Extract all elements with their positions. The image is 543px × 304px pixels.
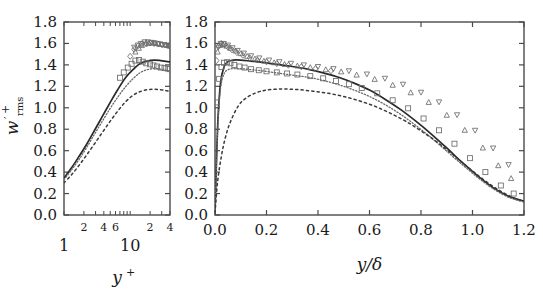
- left-ytick-label: 0.0: [33, 206, 57, 224]
- marker-square: [437, 128, 442, 133]
- marker-triangle-down: [506, 163, 511, 168]
- left-xtick-minor-label: 4: [100, 221, 107, 234]
- left-xtick-decade-label: 10: [120, 236, 140, 255]
- marker-triangle-up: [372, 76, 377, 81]
- right-xtick-label: 1.0: [461, 221, 485, 239]
- marker-triangle-down: [382, 76, 387, 81]
- left-plot-frame: [64, 22, 170, 215]
- left-ytick-label: 1.6: [33, 34, 57, 52]
- left-ytick-label: 0.8: [33, 120, 57, 138]
- right-ytick-label: 1.2: [184, 77, 208, 95]
- marker-triangle-down: [346, 69, 351, 74]
- left-panel: 0.00.20.40.60.81.01.21.41.61.824624110y+: [33, 13, 173, 287]
- right-ytick-label: 0.6: [184, 142, 208, 160]
- right-xaxis-title: y/δ: [356, 254, 383, 274]
- left-xaxis-title-sup: +: [126, 266, 135, 279]
- marker-square: [498, 183, 503, 188]
- marker-square: [511, 191, 516, 196]
- marker-triangle-down: [364, 72, 369, 77]
- marker-square: [285, 71, 290, 76]
- left-ytick-label: 1.4: [33, 56, 57, 74]
- right-curves: [214, 40, 524, 212]
- right-curve-solid: [215, 60, 524, 213]
- scientific-figure: 0.00.20.40.60.81.01.21.41.61.824624110y+…: [0, 0, 543, 304]
- marker-triangle-up: [496, 163, 501, 168]
- yaxis-title-group: w′rms+: [0, 97, 25, 136]
- marker-triangle-down: [472, 128, 477, 133]
- left-xtick-decade-label: 1: [59, 236, 69, 255]
- marker-triangle-up: [308, 65, 313, 70]
- marker-triangle-up: [339, 69, 344, 74]
- right-ytick-label: 1.8: [184, 13, 208, 31]
- right-ytick-label: 1.0: [184, 99, 208, 117]
- marker-triangle-up: [408, 90, 413, 95]
- left-ytick-label: 0.6: [33, 142, 57, 160]
- left-xtick-minor-label: 4: [167, 221, 174, 234]
- marker-square: [406, 106, 411, 111]
- left-ytick-label: 0.4: [33, 163, 57, 181]
- marker-diamond: [128, 53, 133, 59]
- right-xtick-label: 0.4: [306, 221, 330, 239]
- yaxis-title-sup: +: [0, 105, 12, 114]
- right-ytick-label: 0.8: [184, 120, 208, 138]
- marker-triangle-up: [509, 176, 514, 181]
- right-curve-coarse-dashed: [215, 89, 524, 213]
- left-xtick-minor-label: 2: [147, 221, 154, 234]
- right-panel: 0.00.20.40.60.81.01.21.41.61.80.00.20.40…: [184, 13, 536, 274]
- marker-square: [121, 70, 126, 75]
- left-curve-coarse-dashed: [64, 89, 170, 182]
- left-ytick-label: 1.0: [33, 99, 57, 117]
- marker-triangle-down: [418, 90, 423, 95]
- right-ytick-label: 1.4: [184, 56, 208, 74]
- right-xtick-label: 1.2: [512, 221, 536, 239]
- marker-triangle-down: [400, 82, 405, 87]
- left-ytick-label: 1.2: [33, 77, 57, 95]
- figure-container: 0.00.20.40.60.81.01.21.41.61.824624110y+…: [0, 0, 543, 304]
- left-ytick-label: 1.8: [33, 13, 57, 31]
- marker-triangle-down: [490, 146, 495, 151]
- left-curve-fine-dotted: [64, 69, 170, 180]
- left-ytick-label: 0.2: [33, 185, 57, 203]
- marker-square: [467, 156, 472, 161]
- marker-square: [421, 116, 426, 121]
- right-plot-frame: [215, 22, 524, 215]
- right-xtick-label: 0.0: [203, 221, 227, 239]
- marker-triangle-up: [390, 82, 395, 87]
- marker-square: [334, 78, 339, 83]
- marker-triangle-up: [354, 72, 359, 77]
- right-ytick-label: 0.4: [184, 163, 208, 181]
- right-ytick-label: 0.2: [184, 185, 208, 203]
- yaxis-title-w: w: [2, 120, 22, 135]
- right-scatter-squares: [215, 60, 517, 196]
- marker-triangle-up: [462, 127, 467, 132]
- marker-triangle-down: [436, 100, 441, 105]
- left-xaxis-title: y: [111, 267, 122, 287]
- marker-triangle-up: [480, 145, 485, 150]
- right-ytick-label: 1.6: [184, 34, 208, 52]
- marker-square: [452, 141, 457, 146]
- left-curves: [64, 40, 173, 183]
- marker-triangle-up: [444, 112, 449, 117]
- marker-square: [483, 170, 488, 175]
- right-xtick-label: 0.6: [358, 221, 382, 239]
- marker-square: [125, 65, 130, 70]
- marker-triangle-up: [426, 100, 431, 105]
- marker-triangle-up: [323, 67, 328, 72]
- left-xtick-minor-label: 2: [80, 221, 87, 234]
- left-xtick-minor-label: 6: [112, 221, 119, 234]
- right-xtick-label: 0.2: [255, 221, 279, 239]
- right-xtick-label: 0.8: [409, 221, 433, 239]
- yaxis-title-sub: rms: [14, 97, 25, 116]
- marker-triangle-down: [454, 113, 459, 118]
- marker-square: [117, 75, 122, 80]
